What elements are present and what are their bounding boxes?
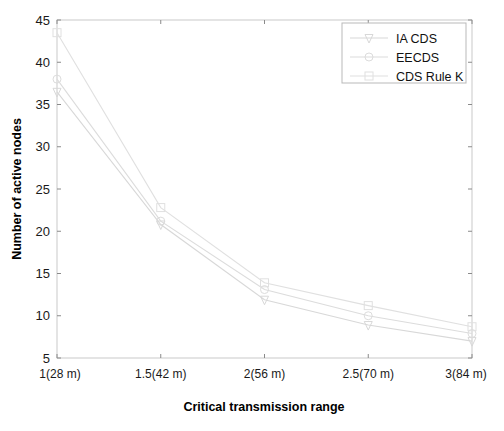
- x-tick-label: 3(84 m): [445, 367, 486, 381]
- y-tick-label: 5: [43, 351, 50, 366]
- series-ia-cds: [53, 88, 476, 346]
- y-axis-title: Number of active nodes: [10, 118, 24, 260]
- line-chart-canvas: 51015202530354045 1(28 m)1.5(42 m)2(56 m…: [0, 0, 504, 431]
- x-tick-label: 2.5(70 m): [343, 367, 394, 381]
- y-tick-label: 20: [36, 224, 50, 239]
- y-tick-label: 35: [36, 97, 50, 112]
- y-tick-label: 15: [36, 266, 50, 281]
- x-axis-title: Critical transmission range: [183, 400, 344, 414]
- chart-legend[interactable]: IA CDSEECDSCDS Rule K: [342, 23, 466, 84]
- chart-figure: 51015202530354045 1(28 m)1.5(42 m)2(56 m…: [0, 0, 504, 431]
- x-tick-label: 1(28 m): [39, 367, 80, 381]
- x-axis-tick-labels: 1(28 m)1.5(42 m)2(56 m)2.5(70 m)3(84 m): [39, 367, 486, 381]
- legend-label: EECDS: [396, 51, 439, 65]
- x-tick-label: 2(56 m): [244, 367, 285, 381]
- series-line: [57, 79, 472, 333]
- y-axis-tick-labels: 51015202530354045: [36, 13, 50, 366]
- y-tick-label: 10: [36, 308, 50, 323]
- legend-label: CDS Rule K: [396, 70, 464, 84]
- y-tick-label: 30: [36, 139, 50, 154]
- series-eecds: [53, 75, 476, 337]
- x-tick-label: 1.5(42 m): [135, 367, 186, 381]
- legend-label: IA CDS: [396, 32, 437, 46]
- y-tick-label: 40: [36, 55, 50, 70]
- y-tick-label: 45: [36, 13, 50, 28]
- y-tick-label: 25: [36, 182, 50, 197]
